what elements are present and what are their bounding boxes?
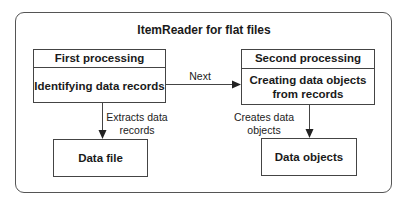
next-label: Next xyxy=(180,70,220,83)
next-arrowhead-icon xyxy=(232,81,241,89)
extracts-label-line1: Extracts data xyxy=(104,111,170,124)
creates-arrowhead-icon xyxy=(306,129,314,138)
extracts-label-line2: records xyxy=(104,124,170,137)
creates-label-line2: objects xyxy=(232,124,296,137)
extracts-label: Extracts data records xyxy=(104,111,170,137)
connector-arrows xyxy=(0,0,408,202)
creates-label: Creates data objects xyxy=(232,111,296,137)
creates-label-line1: Creates data xyxy=(232,111,296,124)
